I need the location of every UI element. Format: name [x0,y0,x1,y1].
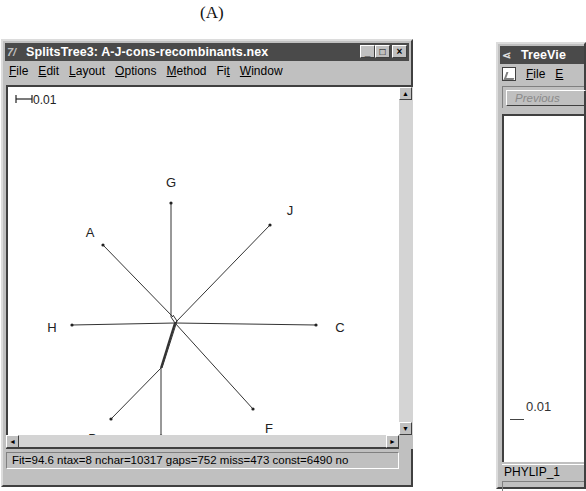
treeview-toolbar: Previous [502,86,584,108]
menu-options-label: ptions [124,64,156,78]
minimize-button[interactable]: _ [360,45,375,58]
taxon-node[interactable] [109,417,112,420]
menu-options[interactable]: Options [111,64,162,78]
menu-method-label: ethod [176,64,206,78]
network-edge [175,323,253,409]
menu-layout[interactable]: Layout [65,64,111,78]
network-edges [70,201,317,435]
taxa-labels: GAJHCDBF [47,175,344,435]
treeview-menu-edit[interactable]: E [551,67,569,81]
menu-fit[interactable]: Fit [213,64,236,78]
menu-window-mnemonic: W [240,64,251,78]
scale-bar [16,95,32,103]
scroll-left-button[interactable]: ◄ [6,435,19,448]
status-bar: Fit=94.6 ntax=8 nchar=10317 gaps=752 mis… [6,452,399,469]
taxon-node[interactable] [169,201,172,204]
previous-button[interactable]: Previous [506,90,586,106]
network-edge [103,245,173,317]
menu-window-label: indow [251,64,282,78]
treeview-menu-file[interactable]: File [522,67,551,81]
taxon-label-h[interactable]: H [47,320,56,335]
menu-window[interactable]: Window [236,64,289,78]
scroll-down-button[interactable]: ▼ [399,422,412,435]
maximize-button[interactable]: □ [375,45,390,58]
menu-file[interactable]: File [5,64,34,78]
taxon-node[interactable] [251,407,254,410]
taxon-label-a[interactable]: A [86,225,95,240]
network-edge [175,323,316,325]
menu-fit-label: t [227,64,230,78]
menu-bar: File Edit Layout Options Method Fit Wind… [5,62,409,80]
taxon-label-j[interactable]: J [287,203,294,218]
taxon-node[interactable] [70,323,73,326]
document-icon[interactable] [502,67,516,81]
network-canvas[interactable]: 0.01 GAJHCDBF [6,85,399,435]
taxon-node[interactable] [101,243,104,246]
menu-edit[interactable]: Edit [34,64,65,78]
splitstree-app-icon: 7/ [7,45,23,59]
splits-network-graph: 0.01 GAJHCDBF [8,87,399,435]
menu-file-label: ile [16,64,28,78]
treeview-title-bar[interactable]: ⋖ TreeVie [500,46,584,64]
menu-edit-label: dit [46,64,59,78]
treeview-window-title: TreeVie [521,48,566,62]
network-edge [162,321,177,368]
taxon-label-g[interactable]: G [166,175,176,190]
treeview-window: ⋖ TreeVie File E Previous 0.01 PHYLIP_1 [496,42,586,489]
vertical-scrollbar[interactable]: ▲ ▼ [399,85,413,435]
menu-layout-mnemonic: L [69,64,76,78]
splitstree-window: 7/ SplitsTree3: A-J-cons-recombinants.ne… [1,39,413,487]
treeview-app-icon: ⋖ [502,48,518,62]
figure-label: (A) [200,3,224,23]
treeview-status-bar [502,481,584,491]
close-button[interactable]: × [392,45,407,58]
treeview-menu-edit-mnemonic: E [555,67,563,81]
treeview-menu-file-label: ile [533,67,545,81]
taxon-label-f[interactable]: F [265,421,273,435]
network-edge [111,368,161,419]
treeview-tab-phylip[interactable]: PHYLIP_1 [502,464,584,480]
treeview-scale-label: 0.01 [526,399,551,414]
menu-method-mnemonic: M [166,64,176,78]
scrollbar-corner [399,435,413,449]
title-bar[interactable]: 7/ SplitsTree3: A-J-cons-recombinants.ne… [5,43,409,61]
network-edge [161,323,175,368]
treeview-menu-bar: File E [500,65,582,83]
menu-method[interactable]: Method [162,64,212,78]
network-edge [175,225,270,323]
menu-layout-label: ayout [76,64,105,78]
network-edge [72,323,175,325]
treeview-canvas[interactable]: 0.01 [502,114,584,462]
scale-bar-label: 0.01 [33,93,57,107]
window-controls: _ □ × [360,45,407,58]
taxon-node[interactable] [268,223,271,226]
horizontal-scrollbar[interactable]: ◄ ► [6,435,399,449]
treeview-scale-bar [510,419,524,420]
taxon-node[interactable] [314,323,317,326]
menu-fit-mnemonic: Fi [217,64,227,78]
scroll-right-button[interactable]: ► [386,435,399,448]
taxon-label-c[interactable]: C [335,320,344,335]
window-title: SplitsTree3: A-J-cons-recombinants.nex [26,45,268,59]
scroll-up-button[interactable]: ▲ [399,87,412,100]
